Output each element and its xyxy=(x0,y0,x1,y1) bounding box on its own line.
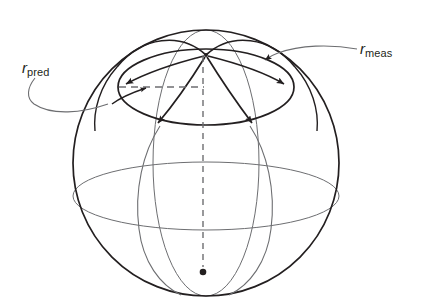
r-pred-arc xyxy=(112,88,146,104)
pole-point xyxy=(204,53,208,57)
label-r-pred: rpred xyxy=(22,60,49,75)
r-meas-subscript: meas xyxy=(365,47,392,59)
equator-ellipse xyxy=(73,162,339,230)
meridian-geodesic-right-tail xyxy=(229,126,272,295)
cap-arrow-arc-right xyxy=(208,56,284,84)
sphere-outline xyxy=(73,30,339,296)
label-r-meas: rmeas xyxy=(360,41,392,56)
r-meas-leader-line xyxy=(265,46,357,60)
r-pred-subscript: pred xyxy=(27,66,49,78)
sphere-center-dot xyxy=(200,269,207,276)
